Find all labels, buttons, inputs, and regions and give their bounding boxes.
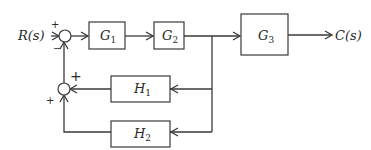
summing-junction-1	[59, 30, 71, 42]
h2-to-s2-line	[64, 96, 111, 132]
block-g3: G3	[241, 14, 288, 55]
block-g1: G1	[89, 22, 125, 49]
s2-sign-bottom: +	[46, 95, 54, 106]
block-diagram: R(s) + − G1 G2 G3 C(s) H1	[0, 0, 371, 150]
output-label: C(s)	[335, 28, 362, 43]
block-h1: H1	[111, 76, 170, 102]
input-label: R(s)	[17, 28, 45, 43]
block-g2: G2	[154, 22, 184, 49]
s2-sign-right: +	[70, 68, 82, 84]
s1-sign-top: +	[51, 19, 59, 30]
block-h2: H2	[111, 121, 170, 147]
summing-junction-2	[58, 83, 70, 95]
